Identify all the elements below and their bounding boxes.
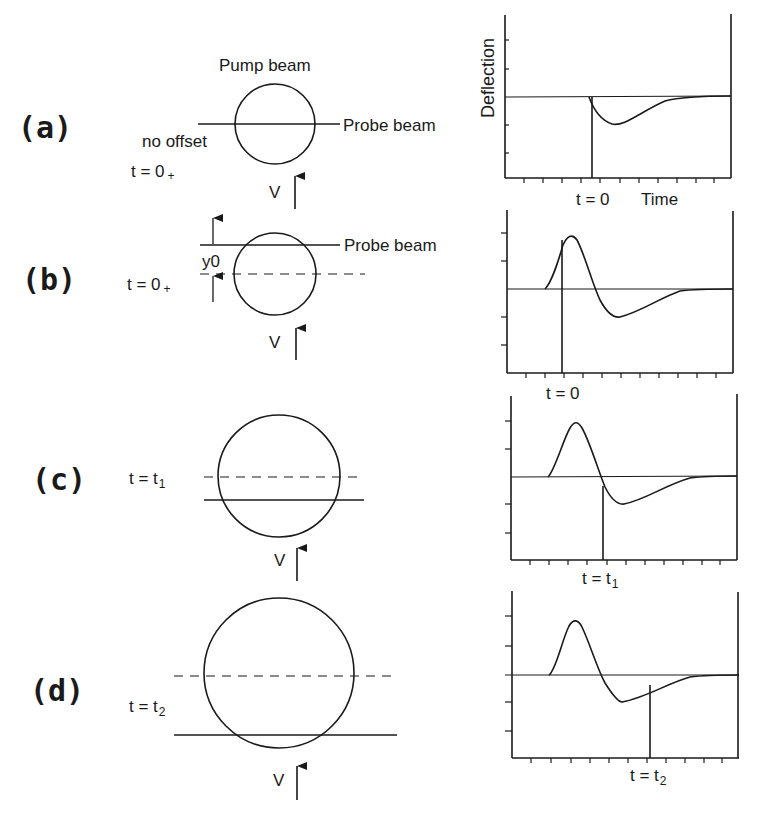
x-axis-title: Time bbox=[641, 190, 678, 209]
velocity-label-d: V bbox=[273, 771, 285, 790]
deflection-curve-b bbox=[545, 236, 733, 317]
velocity-label-c: V bbox=[274, 551, 286, 570]
panel-a: (a) Pump beam Probe beam no offset t = 0… bbox=[18, 14, 731, 209]
deflection-curve-c bbox=[548, 423, 737, 504]
deflection-chart-c: t = t1 bbox=[505, 394, 737, 591]
velocity-label-b: V bbox=[269, 333, 281, 352]
figure-canvas: (a) Pump beam Probe beam no offset t = 0… bbox=[0, 0, 757, 817]
deflection-curve-a bbox=[589, 96, 731, 124]
y-axis-ticks bbox=[501, 233, 507, 345]
panel-label-a: (a) bbox=[18, 110, 72, 145]
panel-label-d: (d) bbox=[30, 673, 84, 708]
panel-c: (c) t = t1 V bbox=[32, 394, 737, 591]
probe-beam-label-a: Probe beam bbox=[343, 116, 436, 135]
y-axis-ticks bbox=[505, 616, 512, 731]
deflection-chart-d: t = t2 bbox=[505, 591, 739, 788]
velocity-label-a: V bbox=[269, 183, 281, 202]
no-offset-label: no offset bbox=[142, 132, 207, 151]
y-axis-title: Deflection bbox=[478, 38, 498, 118]
chart-time-label-c: t = t1 bbox=[582, 569, 619, 591]
y-axis-ticks bbox=[505, 421, 511, 533]
panel-label-c: (c) bbox=[32, 462, 86, 497]
pump-beam-circle-c bbox=[218, 415, 340, 537]
probe-beam-label-b: Probe beam bbox=[344, 236, 437, 255]
time-label-c: t = t1 bbox=[129, 469, 166, 491]
pump-beam-circle-d bbox=[204, 598, 354, 748]
deflection-chart-a: Deflection t = 0 Time bbox=[478, 14, 731, 209]
chart-time-label-b: t = 0 bbox=[546, 384, 580, 403]
panel-d: (d) t = t2 V bbox=[30, 591, 739, 800]
deflection-chart-b: t = 0 bbox=[501, 210, 733, 403]
chart-time-label-d: t = t2 bbox=[630, 766, 667, 788]
pump-beam-label: Pump beam bbox=[219, 56, 311, 75]
time-label-b: t = 0+ bbox=[127, 275, 171, 296]
offset-symbol-y0: y0 bbox=[202, 252, 220, 271]
time-label-a: t = 0+ bbox=[131, 162, 175, 183]
chart-time-label-a: t = 0 bbox=[576, 190, 610, 209]
panel-label-b: (b) bbox=[22, 262, 76, 297]
panel-b: (b) Probe beam y0 t = 0+ V bbox=[22, 210, 733, 403]
time-label-d: t = t2 bbox=[129, 697, 166, 719]
deflection-curve-d bbox=[549, 621, 739, 702]
